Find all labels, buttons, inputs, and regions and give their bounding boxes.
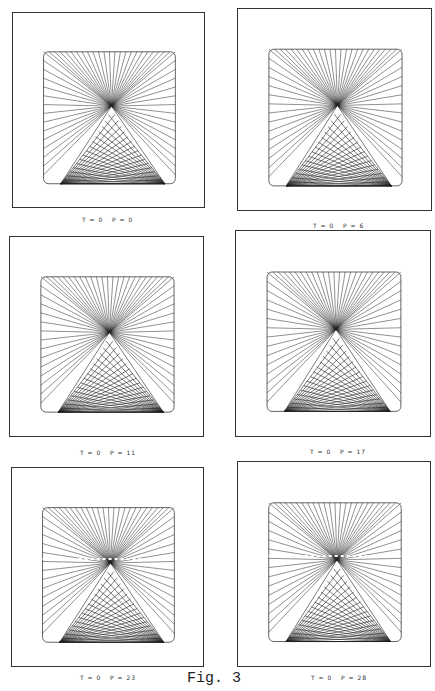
ray-pattern-plot (10, 237, 203, 436)
panel-2 (237, 8, 432, 211)
panel-3 (9, 236, 204, 437)
caption-6: T = 0 P = 28 (311, 674, 367, 681)
ray-pattern-plot (238, 9, 431, 210)
caption-5: T = 0 P = 23 (80, 674, 136, 681)
panel-1 (12, 12, 205, 208)
figure-label: Fig. 3 (187, 670, 241, 687)
panel-6 (237, 461, 431, 667)
ray-pattern-plot (12, 468, 203, 666)
panel-5 (11, 467, 204, 667)
caption-4: T = 0 P = 17 (310, 448, 366, 455)
ray-pattern-plot (13, 13, 204, 207)
caption-3: T = 0 P = 11 (80, 449, 136, 456)
ray-pattern-plot (236, 231, 430, 436)
panel-4 (235, 230, 431, 437)
caption-1: T = 0 P = 0 (82, 216, 133, 223)
caption-2: T = 0 P = 6 (313, 222, 364, 229)
ray-pattern-plot (238, 462, 430, 666)
